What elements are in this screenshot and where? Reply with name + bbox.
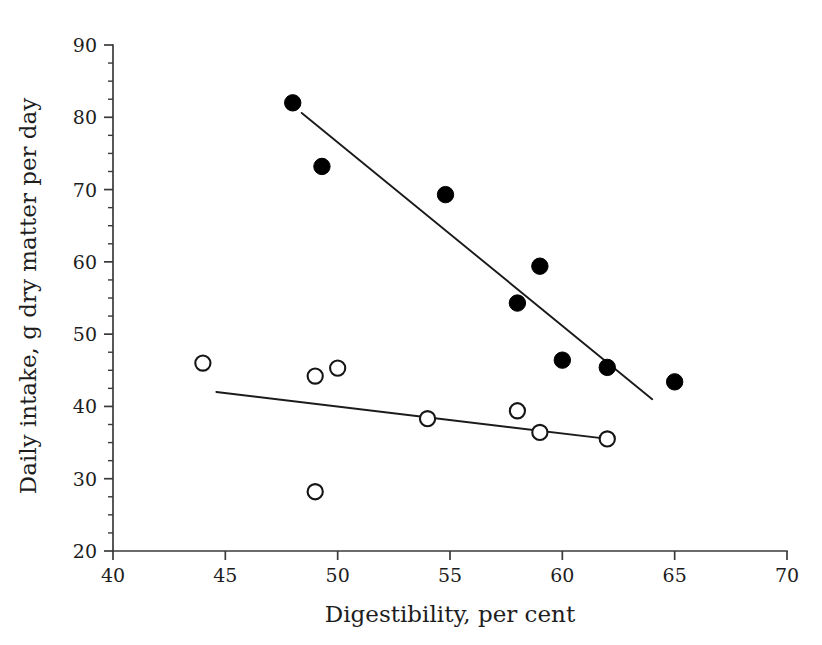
regression-line-open-circles bbox=[216, 392, 614, 440]
x-tick-label: 40 bbox=[101, 564, 125, 586]
major-ticks bbox=[104, 45, 787, 560]
regression-line-filled-circles bbox=[302, 113, 652, 399]
plot-canvas: 203040506070809040455055606570 Digestibi… bbox=[0, 0, 822, 645]
tick-labels: 203040506070809040455055606570 bbox=[73, 34, 799, 586]
data-point-open-circles bbox=[600, 431, 615, 446]
axes bbox=[113, 45, 787, 551]
y-tick-label: 70 bbox=[73, 179, 97, 201]
data-point-open-circles bbox=[195, 355, 210, 370]
data-point-filled-circles bbox=[532, 258, 548, 274]
data-point-filled-circles bbox=[437, 186, 453, 202]
y-tick-label: 80 bbox=[73, 106, 97, 128]
data-point-filled-circles bbox=[285, 95, 301, 111]
y-tick-label: 50 bbox=[73, 323, 97, 345]
x-tick-label: 50 bbox=[326, 564, 350, 586]
y-tick-label: 60 bbox=[73, 251, 97, 273]
data-point-open-circles bbox=[510, 403, 525, 418]
x-tick-label: 65 bbox=[663, 564, 687, 586]
x-tick-label: 45 bbox=[213, 564, 237, 586]
data-point-open-circles bbox=[420, 411, 435, 426]
y-axis-title: Daily intake, g dry matter per day bbox=[15, 98, 41, 495]
y-tick-label: 20 bbox=[73, 540, 97, 562]
x-tick-label: 55 bbox=[438, 564, 462, 586]
x-tick-label: 60 bbox=[550, 564, 574, 586]
data-point-filled-circles bbox=[509, 295, 525, 311]
data-points bbox=[195, 95, 683, 500]
data-point-filled-circles bbox=[314, 158, 330, 174]
y-tick-label: 90 bbox=[73, 34, 97, 56]
data-point-filled-circles bbox=[599, 359, 615, 375]
data-point-filled-circles bbox=[666, 374, 682, 390]
x-tick-label: 70 bbox=[775, 564, 799, 586]
y-tick-label: 30 bbox=[73, 468, 97, 490]
regression-lines bbox=[216, 113, 652, 440]
data-point-open-circles bbox=[308, 484, 323, 499]
data-point-open-circles bbox=[532, 425, 547, 440]
data-point-filled-circles bbox=[554, 352, 570, 368]
x-axis-title: Digestibility, per cent bbox=[325, 601, 576, 627]
scatter-plot-figure: 203040506070809040455055606570 Digestibi… bbox=[0, 0, 822, 645]
data-point-open-circles bbox=[330, 361, 345, 376]
data-point-open-circles bbox=[308, 368, 323, 383]
y-tick-label: 40 bbox=[73, 395, 97, 417]
